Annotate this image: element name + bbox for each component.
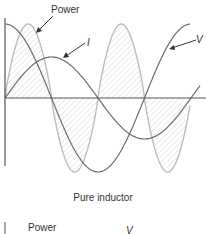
figure-caption: Pure inductor: [0, 192, 206, 203]
next-figure-voltage-label: V: [126, 226, 133, 234]
next-figure-power-label: Power: [28, 223, 56, 233]
current-arrow: [63, 43, 85, 58]
voltage-arrow: [169, 40, 196, 50]
voltage-label: V: [196, 35, 203, 45]
current-label: I: [87, 38, 90, 48]
power-arrow: [36, 16, 53, 33]
power-label: Power: [51, 5, 79, 15]
